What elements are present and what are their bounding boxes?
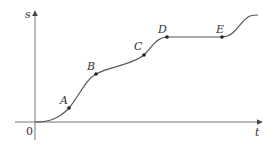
y-axis-label: s	[25, 8, 31, 21]
point-D: D	[157, 23, 169, 39]
position-curve	[35, 15, 258, 122]
point-A: A	[59, 94, 71, 110]
point-A-label: A	[59, 94, 68, 107]
point-C-label: C	[134, 40, 143, 53]
position-time-graph: s t 0 A B C D E	[0, 0, 274, 147]
origin-label: 0	[26, 125, 33, 138]
point-B-label: B	[86, 60, 95, 73]
point-B: B	[86, 60, 98, 76]
x-axis-label: t	[255, 126, 260, 139]
point-E-label: E	[215, 23, 224, 36]
point-C-marker	[142, 53, 146, 57]
point-C: C	[134, 40, 146, 57]
point-D-label: D	[157, 23, 167, 36]
